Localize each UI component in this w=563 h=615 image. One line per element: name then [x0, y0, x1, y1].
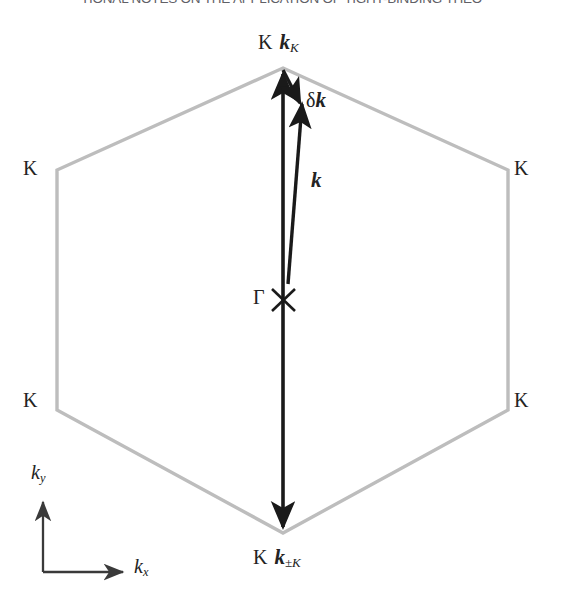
brillouin-zone-figure [0, 0, 563, 615]
k-K-subscript: K [290, 40, 299, 55]
axis-y-label: ky [31, 462, 45, 484]
vertex-label-bottom-K: K [253, 546, 267, 568]
vertex-label-lower-right: K [514, 390, 528, 410]
k-vector-label: k [311, 170, 322, 191]
delta-k-label: δk [306, 90, 326, 111]
k-pmK-vector-label: k±K [274, 545, 300, 569]
vertex-label-top: KkK [258, 32, 299, 54]
vertex-label-upper-right: K [514, 158, 528, 178]
k-pmK-subscript: ±K [285, 555, 301, 570]
coordinate-axes [43, 502, 123, 572]
gamma-point-label: Γ [253, 287, 265, 307]
axis-x-symbol: k [134, 555, 143, 577]
axis-y-subscript: y [40, 471, 46, 485]
vertex-label-upper-left: K [23, 158, 37, 178]
delta-k-vector-symbol: k [315, 88, 326, 112]
k-K-vector-label: kK [279, 30, 298, 54]
vertex-label-lower-left: K [23, 390, 37, 410]
figure-page: TIONAL NOTES ON THE APPLICATION OF TIGHT… [0, 0, 563, 615]
axis-x-label: kx [134, 556, 148, 578]
k-arrow [288, 104, 302, 284]
vertex-label-top-K: K [258, 31, 272, 53]
axis-y-symbol: k [31, 461, 40, 483]
axis-x-subscript: x [143, 565, 149, 579]
vertex-label-bottom: Kk±K [253, 547, 301, 569]
